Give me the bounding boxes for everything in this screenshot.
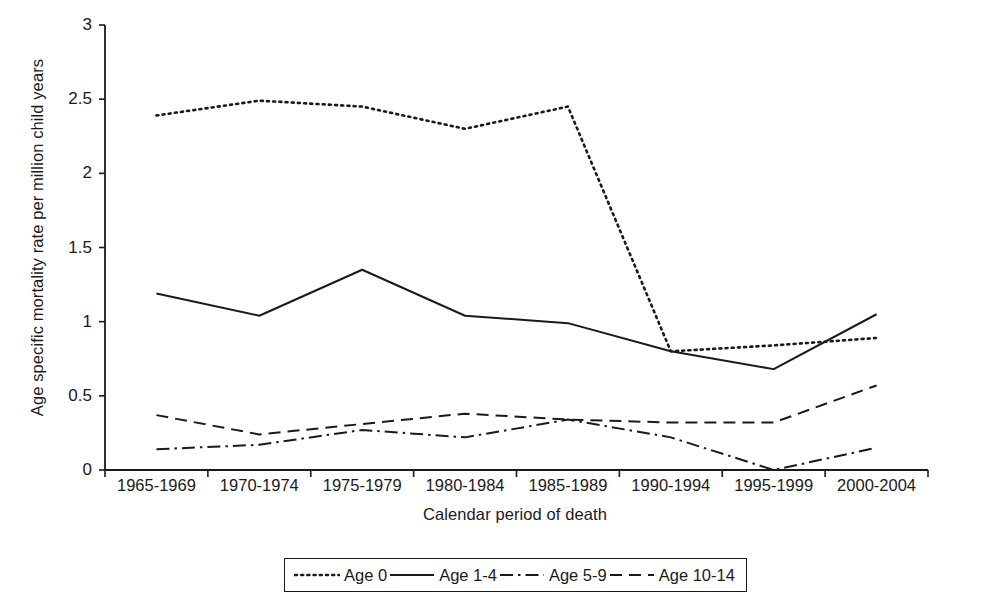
y-tick-label: 2	[48, 163, 92, 183]
y-tick-label: 3	[48, 15, 92, 35]
series-line-3	[156, 420, 876, 470]
y-tick-label: 0.5	[48, 386, 92, 406]
x-tick-label: 1995-1999	[734, 476, 813, 495]
x-tick-label: 1970-1974	[220, 476, 299, 495]
legend-item-3[interactable]: Age 5-9	[499, 559, 609, 591]
series-lines	[156, 101, 876, 470]
chart-figure: Age specific mortality rate per million …	[0, 0, 992, 606]
legend-label: Age 10-14	[655, 566, 737, 585]
series-line-2	[156, 270, 876, 369]
y-axis-tick-labels: 00.511.522.53	[42, 0, 92, 606]
y-tick-label: 1.5	[48, 238, 92, 258]
legend-label: Age 5-9	[545, 566, 609, 585]
legend-swatch-dashdot-icon	[499, 568, 545, 582]
y-tick-label: 2.5	[48, 89, 92, 109]
series-line-4	[156, 385, 876, 434]
legend-swatch-dotted-icon	[294, 568, 340, 582]
x-tick-label: 1990-1994	[631, 476, 710, 495]
x-tick-label: 1965-1969	[117, 476, 196, 495]
chart-legend: Age 0Age 1-4Age 5-9Age 10-14	[284, 558, 747, 592]
x-tick-label: 1980-1984	[426, 476, 505, 495]
x-tick-label: 1975-1979	[323, 476, 402, 495]
x-tick-label: 1985-1989	[528, 476, 607, 495]
legend-label: Age 0	[340, 566, 389, 585]
y-tick-label: 1	[48, 312, 92, 332]
legend-label: Age 1-4	[435, 566, 499, 585]
x-tick-label: 2000-2004	[837, 476, 916, 495]
legend-item-4[interactable]: Age 10-14	[609, 559, 737, 591]
y-tick-label: 0	[48, 460, 92, 480]
legend-swatch-solid-icon	[389, 568, 435, 582]
x-axis-title: Calendar period of death	[100, 505, 930, 524]
legend-item-1[interactable]: Age 0	[294, 559, 389, 591]
legend-item-2[interactable]: Age 1-4	[389, 559, 499, 591]
axis-lines	[99, 25, 928, 477]
legend-swatch-dashed-icon	[609, 568, 655, 582]
